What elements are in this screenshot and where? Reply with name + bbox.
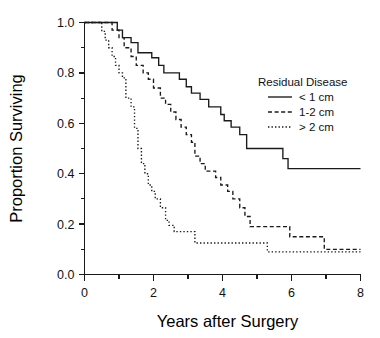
x-axis-title: Years after Surgery <box>157 312 299 330</box>
x-ticklabel: 8 <box>357 286 364 300</box>
y-axis-title: Proportion Surviving <box>7 74 25 223</box>
legend-title: Residual Disease <box>258 76 348 88</box>
survival-curve-3 <box>85 23 361 252</box>
legend-label-3: > 2 cm <box>299 121 334 133</box>
y-ticklabel: 1.0 <box>57 16 74 30</box>
chart-canvas: 0.00.20.40.60.81.002468Years after Surge… <box>0 0 380 338</box>
y-ticklabel: 0.0 <box>57 268 74 282</box>
legend-label-1: < 1 cm <box>299 91 334 103</box>
x-ticklabel: 2 <box>150 286 157 300</box>
y-ticklabel: 0.2 <box>57 218 74 232</box>
y-ticklabel: 0.6 <box>57 117 74 131</box>
legend-label-2: 1-2 cm <box>299 106 334 118</box>
x-ticklabel: 6 <box>288 286 295 300</box>
x-ticklabel: 0 <box>81 286 88 300</box>
y-ticklabel: 0.8 <box>57 66 74 80</box>
survival-curve-2 <box>85 23 361 250</box>
x-ticklabel: 4 <box>219 286 226 300</box>
y-ticklabel: 0.4 <box>57 167 74 181</box>
survival-curve-figure: 0.00.20.40.60.81.002468Years after Surge… <box>0 0 380 338</box>
